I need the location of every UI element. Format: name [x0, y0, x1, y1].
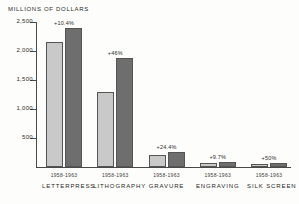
- period-label: 1958-1963: [93, 172, 137, 178]
- y-tick-label: 500: [22, 134, 33, 140]
- period-label: 1958-1963: [247, 172, 291, 178]
- bar-1958: [46, 42, 63, 167]
- category-label: GRAVURE: [145, 183, 189, 189]
- category-label: LETTERPRESS: [42, 183, 86, 189]
- growth-annotation: +24.4%: [145, 144, 189, 150]
- y-tick: 2,000: [36, 51, 37, 52]
- x-axis-label-group: 1958-1963LITHOGRAPHY: [93, 172, 137, 189]
- x-axis-label-group: 1958-1963LETTERPRESS: [42, 172, 86, 189]
- bar-pair: [196, 22, 240, 167]
- x-axis-label-group: 1958-1963GRAVURE: [145, 172, 189, 189]
- x-axis-label-group: 1958-1963SILK SCREEN: [247, 172, 291, 189]
- growth-annotation: +50%: [247, 155, 291, 161]
- bar-pair: [93, 22, 137, 167]
- growth-annotation: +10.4%: [42, 20, 86, 26]
- bar-pair: [42, 22, 86, 167]
- y-tick: 500: [36, 138, 37, 139]
- y-tick-label: 2,500: [16, 18, 33, 24]
- bar-1963: [168, 152, 185, 167]
- bar-1963: [219, 162, 236, 167]
- bar-1958: [251, 164, 268, 167]
- bar-1958: [200, 163, 217, 167]
- category-label: LITHOGRAPHY: [93, 183, 137, 189]
- period-label: 1958-1963: [42, 172, 86, 178]
- growth-annotation: +46%: [93, 50, 137, 56]
- bar-group: +50%: [247, 22, 291, 167]
- y-tick-label: 1,500: [16, 76, 33, 82]
- bar-1963: [270, 163, 287, 167]
- bar-pair: [247, 22, 291, 167]
- chart-container: MILLIONS OF DOLLARS 5001,0001,5002,0002,…: [0, 0, 299, 204]
- y-tick: 1,000: [36, 109, 37, 110]
- bar-group: +46%: [93, 22, 137, 167]
- bar-1963: [65, 28, 82, 167]
- period-label: 1958-1963: [196, 172, 240, 178]
- y-axis-title: MILLIONS OF DOLLARS: [8, 6, 89, 12]
- growth-annotation: +9.7%: [196, 154, 240, 160]
- y-axis-line: [36, 22, 37, 168]
- bar-1958: [149, 155, 166, 167]
- bar-1963: [116, 58, 133, 167]
- y-tick: 2,500: [36, 22, 37, 23]
- bar-group: +10.4%: [42, 22, 86, 167]
- y-tick: 1,500: [36, 80, 37, 81]
- category-label: SILK SCREEN: [247, 183, 291, 189]
- category-label: ENGRAVING: [196, 183, 240, 189]
- y-tick-label: 2,000: [16, 47, 33, 53]
- bar-group: +24.4%: [145, 22, 189, 167]
- x-axis-label-group: 1958-1963ENGRAVING: [196, 172, 240, 189]
- x-axis-line: [36, 167, 291, 168]
- bar-group: +9.7%: [196, 22, 240, 167]
- bar-1958: [97, 92, 114, 167]
- plot-area: 5001,0001,5002,0002,500 +10.4%+46%+24.4%…: [36, 22, 291, 168]
- period-label: 1958-1963: [145, 172, 189, 178]
- y-tick-label: 1,000: [16, 105, 33, 111]
